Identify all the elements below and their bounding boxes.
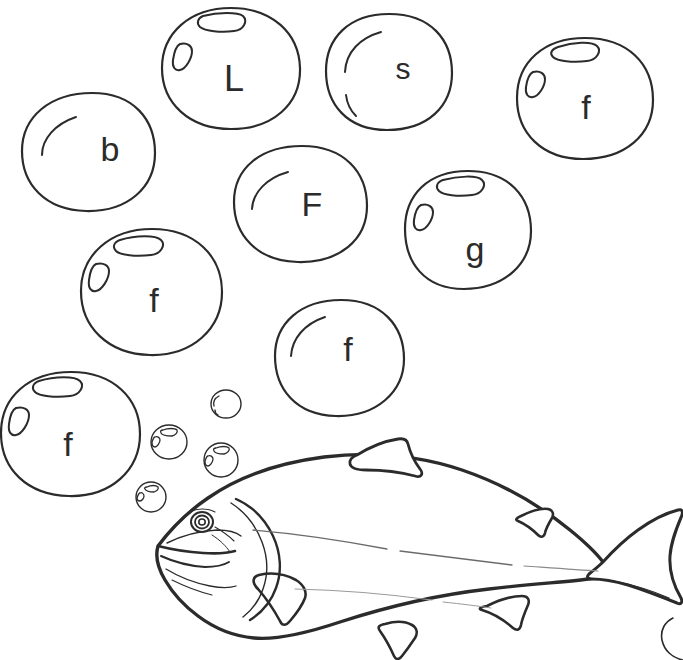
bubble-b[interactable]: b <box>22 93 155 211</box>
bubble-small-3[interactable] <box>204 443 238 477</box>
bubble-highlight-bar <box>198 13 245 32</box>
bubble-f-center[interactable]: f <box>275 300 404 416</box>
bubble-f-topright[interactable]: f <box>517 38 653 159</box>
bubble-letter: f <box>63 425 73 463</box>
bubble-letter: s <box>396 52 411 85</box>
bubble-F[interactable]: F <box>234 146 367 262</box>
bubble-small-4[interactable] <box>136 482 166 512</box>
bubble-f-middleleft[interactable]: f <box>81 229 222 355</box>
worksheet-page: L s f b F <box>0 0 683 660</box>
bubble-letter: L <box>224 58 244 99</box>
bubble-letter: F <box>302 185 323 223</box>
bubble-letter: f <box>149 281 159 319</box>
bubble-highlight-bar <box>114 236 163 256</box>
bubble-small-2[interactable] <box>151 425 187 459</box>
bubble-highlight-bar <box>33 377 82 397</box>
bubble-g[interactable]: g <box>405 171 531 289</box>
bubble-outline <box>234 146 367 262</box>
bubble-letter: g <box>466 230 485 268</box>
bubble-letter: f <box>343 330 353 368</box>
bubble-highlight-bar <box>145 486 159 493</box>
bubble-highlight-bar <box>437 177 484 196</box>
bubble-s[interactable]: s <box>326 14 452 130</box>
eye-pupil <box>199 519 205 525</box>
bubble-letter: b <box>101 130 120 168</box>
bubble-outline <box>275 300 404 416</box>
bubble-highlight-dot <box>137 493 144 501</box>
bubble-f-bottomleft[interactable]: f <box>1 372 140 496</box>
coloring-artboard: L s f b F <box>0 0 683 660</box>
bubble-letter: f <box>581 88 591 126</box>
fish-eye <box>191 512 213 532</box>
bubble-L[interactable]: L <box>162 8 300 129</box>
bubble-highlight-bar <box>214 447 230 455</box>
bubble-small-1[interactable] <box>211 390 241 418</box>
bubble-highlight-bar <box>161 429 178 437</box>
